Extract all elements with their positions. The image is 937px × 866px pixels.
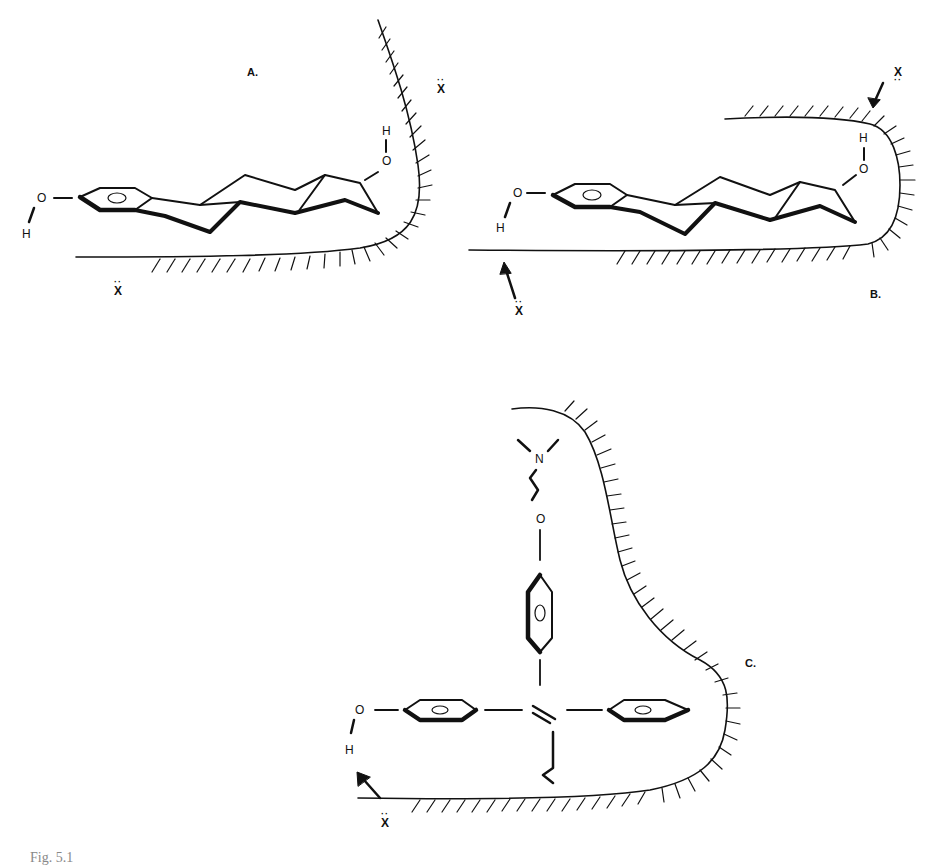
hatch-b — [617, 106, 915, 264]
hatch-c — [412, 401, 740, 812]
receptor-surface-b — [469, 117, 900, 251]
atom-h-a-left: H — [22, 228, 31, 240]
atom-h-c-left: H — [345, 744, 354, 756]
atom-h-b-right: H — [859, 132, 868, 144]
atom-o-a-left: O — [37, 192, 46, 204]
atom-o-b-left: O — [513, 187, 522, 199]
tamoxifen-molecule — [351, 440, 688, 783]
nucleophile-x-b-right: X·· — [894, 66, 902, 83]
atom-o-b-right: O — [859, 163, 868, 175]
panel-b — [469, 83, 915, 298]
panel-label-a: A. — [247, 67, 258, 78]
atom-o-c-left: O — [355, 704, 364, 716]
panel-label-b: B. — [870, 289, 881, 300]
nucleophile-x-a-right: ··X — [437, 78, 445, 95]
panel-a — [29, 20, 432, 272]
panel-label-c: C. — [745, 658, 756, 669]
arrow-b-right — [868, 83, 883, 108]
atom-h-a-right: H — [382, 125, 391, 137]
atom-o-c-top: O — [536, 513, 545, 525]
receptor-surface-a — [76, 20, 420, 257]
nucleophile-x-b-left: ··X — [515, 300, 523, 317]
atom-n-c: N — [535, 453, 544, 465]
figure-caption: Fig. 5.1 — [30, 850, 73, 866]
nucleophile-x-c: ··X — [381, 812, 389, 829]
arrow-c — [357, 772, 380, 798]
steroid-b — [505, 148, 864, 234]
atom-o-a-right: O — [382, 155, 391, 167]
receptor-surface-c — [358, 408, 727, 799]
nucleophile-x-a-bottom: ··X — [114, 280, 122, 297]
hatch-a — [152, 27, 432, 272]
arrow-b-left — [500, 262, 515, 298]
steroid-a — [29, 140, 386, 232]
atom-h-b-left: H — [496, 222, 505, 234]
panel-c — [351, 401, 740, 812]
